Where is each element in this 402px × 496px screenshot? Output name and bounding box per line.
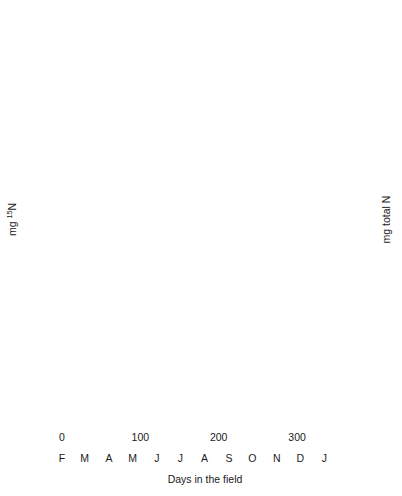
month-label: O — [248, 452, 256, 464]
month-label: A — [201, 452, 208, 464]
right-axis-title: mg total N — [380, 196, 392, 244]
month-label: N — [273, 452, 281, 464]
figure-container: 0100200300FMAMJJASONDJDays in the fieldm… — [0, 0, 402, 496]
month-label: D — [296, 452, 304, 464]
month-label: J — [178, 452, 183, 464]
month-label: M — [128, 452, 137, 464]
x-tick-label: 100 — [132, 431, 150, 443]
month-label: S — [225, 452, 232, 464]
nitrogen-timeseries-chart: 0100200300FMAMJJASONDJDays in the fieldm… — [0, 0, 402, 496]
month-label: J — [322, 452, 327, 464]
month-label: A — [106, 452, 113, 464]
month-label: F — [59, 452, 65, 464]
x-axis-labels: 0100200300FMAMJJASONDJDays in the field — [59, 431, 327, 485]
x-tick-label: 0 — [59, 431, 65, 443]
month-label: J — [154, 452, 159, 464]
x-tick-label: 200 — [210, 431, 228, 443]
x-tick-label: 300 — [288, 431, 306, 443]
x-axis-title: Days in the field — [168, 473, 243, 485]
left-axis-title: mg 15N — [5, 203, 18, 236]
month-label: M — [80, 452, 89, 464]
